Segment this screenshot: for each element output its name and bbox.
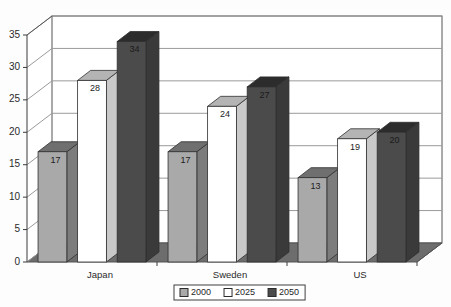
y-axis-tick-label: 25 — [9, 93, 21, 104]
column — [208, 96, 250, 262]
column-value-label: 19 — [350, 142, 360, 152]
y-axis-tick-label: 5 — [14, 223, 20, 234]
legend-item[interactable]: 2050 — [268, 287, 299, 297]
column-value-label: 34 — [130, 44, 140, 54]
y-axis-tick-label: 20 — [9, 126, 21, 137]
legend-label: 2050 — [279, 287, 299, 297]
column-value-label: 17 — [180, 155, 190, 165]
legend-swatch — [224, 289, 232, 297]
column-side-face — [146, 31, 159, 262]
column-chart-3d: 05101520253035172834172427131920JapanSwe… — [0, 0, 451, 307]
column — [78, 70, 120, 262]
column-value-label: 27 — [260, 90, 270, 100]
y-axis-tick-label: 0 — [14, 256, 20, 267]
y-axis-ticks-group: 05101520253035 — [9, 29, 27, 267]
column-value-label: 13 — [310, 181, 320, 191]
column-front-face — [117, 41, 146, 262]
y-axis-tick-label: 35 — [9, 29, 21, 40]
category-labels-group: JapanSwedenUS — [87, 262, 417, 280]
legend-swatch — [268, 289, 276, 297]
column-front-face — [168, 152, 197, 262]
column-value-label: 28 — [90, 83, 100, 93]
column — [247, 77, 289, 262]
column-side-face — [276, 77, 289, 262]
chart-legend: 200020252050 — [174, 285, 305, 300]
legend-label: 2000 — [191, 287, 211, 297]
chart-container: 05101520253035172834172427131920JapanSwe… — [0, 0, 451, 307]
legend-label: 2025 — [235, 287, 255, 297]
column-value-label: 20 — [390, 135, 400, 145]
column-front-face — [208, 106, 237, 262]
column — [117, 31, 159, 262]
column-value-label: 24 — [220, 109, 230, 119]
column-front-face — [38, 152, 67, 262]
column-front-face — [78, 80, 107, 262]
column-value-label: 17 — [50, 155, 60, 165]
x-axis-category-label: Sweden — [213, 269, 247, 280]
x-axis-category-label: Japan — [87, 269, 113, 280]
y-axis-tick-label: 10 — [9, 191, 21, 202]
legend-item[interactable]: 2000 — [180, 287, 211, 297]
y-axis-tick-label: 30 — [9, 61, 21, 72]
column-front-face — [338, 139, 367, 262]
x-axis-category-label: US — [353, 269, 366, 280]
column-front-face — [247, 87, 276, 262]
y-axis-tick-label: 15 — [9, 158, 21, 169]
column-side-face — [406, 122, 419, 262]
legend-swatch — [180, 289, 188, 297]
column-front-face — [377, 132, 406, 262]
legend-item[interactable]: 2025 — [224, 287, 255, 297]
